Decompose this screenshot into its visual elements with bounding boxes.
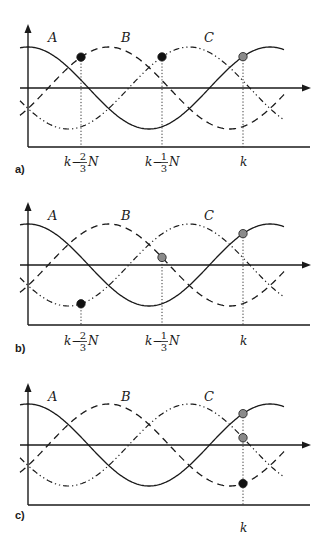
sample-dot-c xyxy=(77,300,85,308)
svg-text:3: 3 xyxy=(161,163,167,174)
sample-dot-b xyxy=(239,479,247,487)
y-axis-arrow-icon xyxy=(25,24,32,33)
sample-dot-a xyxy=(239,229,247,237)
curve-label-c: C xyxy=(204,208,214,223)
svg-text:3: 3 xyxy=(161,342,167,353)
svg-text:k: k xyxy=(240,334,247,348)
svg-text:2: 2 xyxy=(80,151,86,162)
svg-text:N: N xyxy=(87,334,99,348)
panel-b: ABCb)k−23Nk−13Nk xyxy=(15,202,311,354)
panel-c: ABCc)k xyxy=(15,383,311,535)
panel-label: b) xyxy=(15,342,26,354)
x-axis-arrow-icon xyxy=(302,442,311,449)
panel-label: c) xyxy=(15,509,25,521)
curve-label-a: A xyxy=(47,389,57,404)
curve-label-b: B xyxy=(120,30,131,45)
svg-text:N: N xyxy=(87,155,99,169)
svg-text:k−: k− xyxy=(64,334,81,348)
tick-label: k xyxy=(240,334,247,348)
sample-dot-b xyxy=(77,53,85,61)
tick-label: k xyxy=(240,155,247,169)
sample-dot-b xyxy=(158,253,166,261)
curve-label-a: A xyxy=(47,208,57,223)
svg-text:N: N xyxy=(168,155,180,169)
curve-label-c: C xyxy=(204,30,214,45)
curve-label-c: C xyxy=(204,389,214,404)
curve-label-b: B xyxy=(120,208,131,223)
svg-text:k: k xyxy=(240,155,247,169)
svg-text:k: k xyxy=(240,521,247,535)
svg-text:k−: k− xyxy=(145,155,162,169)
sample-dot-c xyxy=(239,434,247,442)
svg-text:k−: k− xyxy=(64,155,81,169)
svg-text:1: 1 xyxy=(161,151,167,162)
svg-text:3: 3 xyxy=(80,163,86,174)
x-axis-arrow-icon xyxy=(302,262,311,269)
svg-text:1: 1 xyxy=(161,330,167,341)
svg-text:N: N xyxy=(168,334,180,348)
tick-label: k−23N xyxy=(64,151,99,174)
tick-label: k xyxy=(240,521,247,535)
curve-label-b: B xyxy=(120,389,131,404)
panel-label: a) xyxy=(15,163,25,175)
panel-a: ABCa)k−23Nk−13Nk xyxy=(15,24,311,175)
tick-label: k−13N xyxy=(145,151,180,174)
svg-text:2: 2 xyxy=(80,330,86,341)
tick-label: k−13N xyxy=(145,330,180,353)
sample-dot-a xyxy=(239,409,247,417)
y-axis-arrow-icon xyxy=(25,202,32,211)
curve-label-a: A xyxy=(47,30,57,45)
svg-text:k−: k− xyxy=(145,334,162,348)
y-axis-arrow-icon xyxy=(25,383,32,392)
x-axis-arrow-icon xyxy=(302,85,311,92)
sample-dot-c xyxy=(158,53,166,61)
svg-text:3: 3 xyxy=(80,342,86,353)
tick-label: k−23N xyxy=(64,330,99,353)
sample-dot-a xyxy=(239,52,247,60)
three-phase-sampling-figure: ABCa)k−23Nk−13NkABCb)k−23Nk−13NkABCc)k xyxy=(0,0,327,540)
